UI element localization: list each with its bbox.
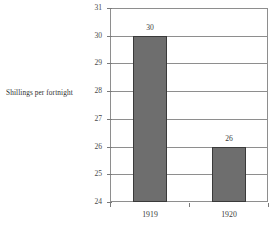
y-tick-label: 30 — [80, 32, 102, 40]
y-tick-mark — [107, 36, 112, 37]
x-tick-label: 1919 — [125, 210, 175, 219]
y-tick-mark — [107, 119, 112, 120]
bar-value-label: 26 — [209, 135, 249, 143]
bar-value-label: 30 — [130, 24, 170, 32]
y-tick-label: 25 — [80, 170, 102, 178]
y-axis-title: Shillings per fortnight — [6, 88, 86, 97]
y-tick-label: 29 — [80, 59, 102, 67]
x-tick-mark — [110, 203, 111, 207]
y-tick-mark — [107, 63, 112, 64]
bar — [212, 147, 246, 202]
y-tick-label: 31 — [80, 4, 102, 12]
y-tick-mark — [107, 91, 112, 92]
y-tick-mark — [107, 147, 112, 148]
x-tick-mark — [268, 203, 269, 207]
y-tick-mark — [107, 8, 112, 9]
bar-chart: Shillings per fortnight 2425262728293031… — [0, 0, 273, 230]
x-tick-mark — [189, 203, 190, 207]
y-tick-label: 26 — [80, 143, 102, 151]
y-tick-label: 28 — [80, 87, 102, 95]
x-tick-label: 1920 — [204, 210, 254, 219]
y-tick-label: 27 — [80, 115, 102, 123]
y-tick-label: 24 — [80, 198, 102, 206]
bar — [133, 36, 167, 202]
y-tick-mark — [107, 174, 112, 175]
